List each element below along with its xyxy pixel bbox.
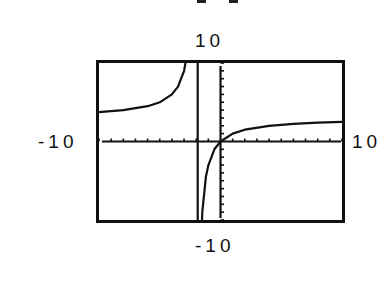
graph-window <box>0 0 392 285</box>
left-branch-curve <box>99 50 188 112</box>
